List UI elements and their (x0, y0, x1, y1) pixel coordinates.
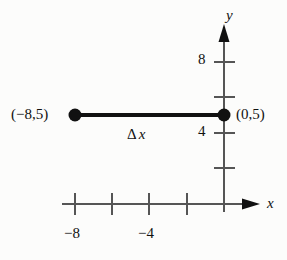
y-tick-label-4: 4 (198, 124, 206, 139)
x-axis-arrowhead (242, 199, 260, 210)
right-endpoint-dot (218, 109, 231, 122)
x-tick-label-minus-4: −4 (138, 226, 154, 241)
left-endpoint-label: (−8,5) (11, 107, 48, 122)
x-axis-label: x (267, 196, 274, 211)
y-axis-arrowhead (219, 24, 230, 42)
y-axis-label: y (226, 8, 233, 23)
left-endpoint-dot (69, 109, 82, 122)
delta-variable: x (137, 126, 146, 142)
delta-x-annotation: Δx (127, 127, 145, 142)
math-figure: y x 8 4 −8 −4 (−8,5) (0,5) Δx (0, 0, 287, 260)
y-tick-label-8: 8 (198, 52, 206, 67)
x-tick-label-minus-8: −8 (64, 226, 80, 241)
right-endpoint-label: (0,5) (236, 107, 265, 122)
delta-symbol: Δ (127, 126, 137, 142)
